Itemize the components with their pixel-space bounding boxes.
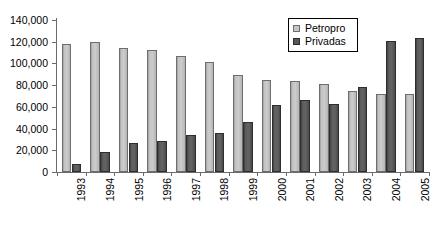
- y-axis-tick-label: 100,000: [10, 58, 48, 68]
- x-axis-tick: [429, 172, 430, 176]
- bar-petropro-1997: [176, 56, 186, 172]
- bar-petropro-1999: [233, 75, 243, 172]
- y-axis-tick: [52, 129, 57, 130]
- legend-item-privadas: Privadas: [293, 35, 353, 48]
- x-axis-label-2002: 2002: [334, 178, 345, 201]
- x-axis-line: [56, 172, 430, 173]
- x-axis-tick: [315, 172, 316, 176]
- legend-item-petropro: Petropro: [293, 22, 353, 35]
- x-axis-tick: [143, 172, 144, 176]
- bar-petropro-2004: [376, 94, 386, 172]
- bar-privadas-1995: [129, 143, 139, 172]
- bar-privadas-2000: [272, 105, 282, 172]
- x-axis-tick: [257, 172, 258, 176]
- bar-petropro-2002: [319, 84, 329, 172]
- y-axis-tick: [52, 107, 57, 108]
- x-axis-label-1996: 1996: [162, 178, 173, 201]
- bar-privadas-2005: [415, 38, 425, 172]
- y-axis-tick-label: 20,000: [16, 145, 48, 155]
- bar-petropro-1995: [119, 48, 129, 172]
- bar-petropro-2000: [262, 80, 272, 172]
- y-axis-tick: [52, 20, 57, 21]
- x-axis-label-2003: 2003: [362, 178, 373, 201]
- bar-privadas-1997: [186, 135, 196, 172]
- bar-privadas-2002: [329, 104, 339, 172]
- x-axis-label-1999: 1999: [248, 178, 259, 201]
- bar-privadas-2001: [300, 100, 310, 172]
- x-axis-tick: [57, 172, 58, 176]
- y-axis-tick-label: 40,000: [16, 124, 48, 134]
- bar-chart: 140,000120,000100,00080,00060,00040,0002…: [0, 0, 433, 227]
- x-axis-label-2005: 2005: [420, 178, 431, 201]
- chart-legend: Petropro Privadas: [288, 18, 358, 52]
- y-axis-tick: [52, 85, 57, 86]
- bar-privadas-1994: [100, 152, 110, 172]
- bar-petropro-1996: [147, 50, 157, 172]
- legend-label-petropro: Petropro: [305, 23, 345, 34]
- x-axis-tick: [343, 172, 344, 176]
- dark-square-icon: [293, 38, 300, 45]
- light-square-icon: [293, 25, 300, 32]
- y-axis-tick-label: 60,000: [16, 102, 48, 112]
- x-axis-label-2001: 2001: [305, 178, 316, 201]
- x-axis-label-1993: 1993: [76, 178, 87, 201]
- bar-petropro-1994: [90, 42, 100, 172]
- x-axis-label-1994: 1994: [105, 178, 116, 201]
- x-axis-label-1998: 1998: [219, 178, 230, 201]
- x-axis-label-2004: 2004: [391, 178, 402, 201]
- y-axis-tick-label: 80,000: [16, 80, 48, 90]
- y-axis-tick: [52, 63, 57, 64]
- bar-petropro-1993: [62, 44, 72, 172]
- bar-privadas-1993: [72, 164, 82, 172]
- bar-privadas-1999: [243, 122, 253, 172]
- bar-privadas-2004: [386, 41, 396, 172]
- bar-privadas-1998: [215, 133, 225, 172]
- x-axis-tick: [400, 172, 401, 176]
- bar-petropro-1998: [205, 62, 215, 172]
- bar-privadas-2003: [358, 87, 368, 172]
- y-axis-tick-label: 140,000: [10, 15, 48, 25]
- bar-privadas-1996: [157, 141, 167, 172]
- x-axis-tick: [114, 172, 115, 176]
- x-axis-tick: [286, 172, 287, 176]
- x-axis-tick: [86, 172, 87, 176]
- x-axis-label-2000: 2000: [277, 178, 288, 201]
- y-axis-tick: [52, 150, 57, 151]
- legend-label-privadas: Privadas: [305, 36, 346, 47]
- y-axis-tick-label: 0: [42, 167, 48, 177]
- x-axis-tick: [200, 172, 201, 176]
- bar-petropro-2003: [348, 91, 358, 172]
- x-axis-tick: [229, 172, 230, 176]
- y-axis-tick-label: 120,000: [10, 37, 48, 47]
- bar-petropro-2001: [290, 81, 300, 172]
- x-axis-label-1995: 1995: [134, 178, 145, 201]
- x-axis-tick: [372, 172, 373, 176]
- y-axis-tick: [52, 42, 57, 43]
- bar-petropro-2005: [405, 94, 415, 172]
- x-axis-tick: [171, 172, 172, 176]
- x-axis-label-1997: 1997: [191, 178, 202, 201]
